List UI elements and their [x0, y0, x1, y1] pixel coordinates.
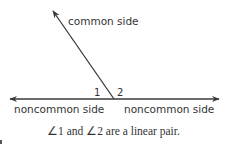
caption: ∠1 and ∠2 are a linear pair.	[47, 125, 180, 138]
corner-artifact	[0, 140, 2, 144]
angle-2-label: 2	[117, 87, 123, 98]
common-side-label: common side	[68, 15, 139, 27]
noncommon-side-right-label: noncommon side	[124, 103, 214, 115]
linear-pair-diagram: common side 1 2 noncommon side noncommon…	[0, 0, 227, 148]
angle-1-label: 1	[94, 87, 100, 98]
noncommon-side-left-label: noncommon side	[14, 103, 104, 115]
